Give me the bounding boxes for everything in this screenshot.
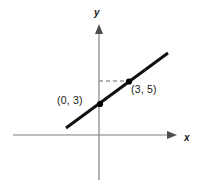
coordinate-plane-figure: y x (0, 3) (3, 5) [0,0,201,190]
x-axis-label: x [184,133,190,143]
point-label-3-5: (3, 5) [131,84,157,95]
plot-canvas [0,0,201,190]
point-label-0-3: (0, 3) [57,95,83,106]
x-axis-arrowhead [167,131,177,139]
y-axis-arrowhead [95,24,103,34]
data-point-0-3 [97,101,103,107]
y-axis-label: y [94,8,100,18]
